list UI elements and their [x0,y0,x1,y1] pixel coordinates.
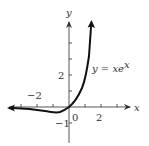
x-tick-label-neg2: −2 [27,90,42,101]
x-tick-label-0: 0 [72,112,78,123]
x-axis-label: x [134,102,140,113]
x-tick-label-2: 2 [96,112,102,123]
curve-equation: y = xex [91,59,130,74]
curve-xex [13,27,91,113]
y-axis-label: y [65,7,72,18]
chart: y x −2 0 2 2 −1 y = xex [0,0,149,146]
y-tick-label-neg1: −1 [55,118,70,129]
y-tick-label-2: 2 [58,70,64,81]
